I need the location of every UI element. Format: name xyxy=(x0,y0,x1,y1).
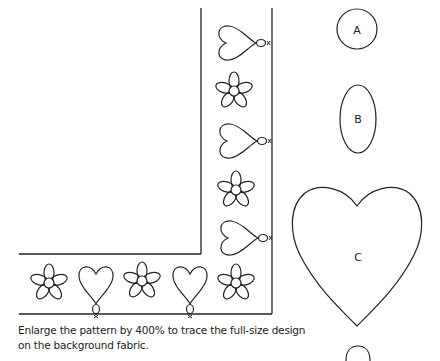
heart-balloon-icon xyxy=(173,267,207,318)
heart-balloon-icon xyxy=(220,124,271,158)
heart-balloon-icon xyxy=(219,26,270,60)
svg-text:B: B xyxy=(354,113,362,126)
heart-balloon-icon xyxy=(221,221,272,255)
flower-icon xyxy=(214,72,253,109)
vertical-border-motifs xyxy=(214,26,272,255)
flower-icon xyxy=(29,264,68,301)
heart-balloon-icon xyxy=(79,267,113,318)
svg-text:A: A xyxy=(353,24,361,37)
template-d-partial xyxy=(346,346,370,361)
template-a: A xyxy=(337,9,377,49)
template-c: C xyxy=(292,187,421,326)
template-b: B xyxy=(340,85,376,153)
horizontal-border-motifs xyxy=(29,262,255,318)
flower-icon xyxy=(216,171,255,208)
flower-icon xyxy=(216,264,255,301)
flower-icon xyxy=(122,262,161,299)
border-frame xyxy=(19,8,272,314)
caption-text: Enlarge the pattern by 400% to trace the… xyxy=(18,323,308,353)
svg-text:C: C xyxy=(354,251,362,264)
quilt-pattern-diagram: A B C xyxy=(0,0,440,361)
